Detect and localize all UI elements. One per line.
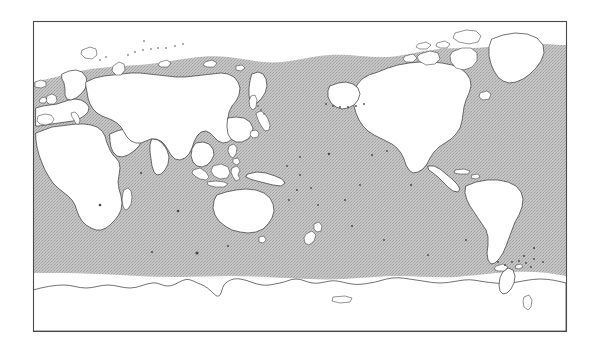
island-dot-pacific-f (288, 199, 290, 201)
island-dot-hawaii-b (386, 150, 388, 152)
island-dot-indian-south (151, 251, 153, 253)
land-iceland (35, 80, 46, 88)
island-dot-indian-b (140, 172, 142, 174)
land-iberia (37, 114, 54, 125)
island-dot-pacific-d (317, 204, 319, 206)
island-dot-juan-fernandez (465, 239, 467, 241)
island-dot-pacific-g (351, 225, 353, 227)
island-dot-indian-a (177, 210, 180, 213)
island-dot-fiji (296, 189, 298, 191)
island-dot-africa-interior (99, 204, 102, 207)
island-dot-hawaii (371, 154, 373, 156)
island-dot-pacific-a (328, 153, 330, 155)
map-interior (33, 30, 566, 331)
world-distribution-map-figure (0, 0, 598, 358)
island-dot-pacific-h (410, 184, 412, 186)
island-dot-samoa (310, 187, 312, 189)
land-ross-ice-shelf (332, 296, 352, 303)
island-dot-south-atlantic (533, 247, 535, 249)
island-dot-pacific-e (359, 184, 361, 186)
island-dot-kerguelen (195, 251, 198, 254)
island-dot-pacific-b (299, 174, 301, 176)
island-dot-pacific-c (344, 199, 346, 201)
island-dot-melanesia (286, 165, 288, 167)
land-antarctica (33, 278, 566, 331)
island-dot-indian-southeast (227, 245, 229, 247)
island-dot-pacific-southeast (427, 254, 429, 256)
island-dot-micronesia (299, 156, 301, 158)
land-british-isles (46, 94, 57, 104)
world-map-graphic (0, 0, 598, 358)
island-dot-pacific-south (383, 239, 385, 241)
